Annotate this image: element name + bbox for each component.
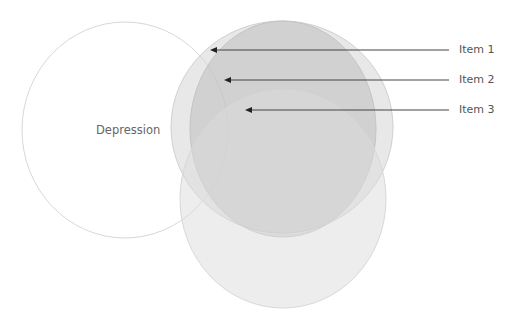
venn-diagram [0,0,511,318]
circle-item3 [180,90,386,308]
callout-label-item-1: Item 1 [459,44,495,55]
callout-label-item-3: Item 3 [459,104,495,115]
depression-label: Depression [96,125,160,137]
circles-layer [22,21,393,308]
callout-label-item-2: Item 2 [459,74,495,85]
